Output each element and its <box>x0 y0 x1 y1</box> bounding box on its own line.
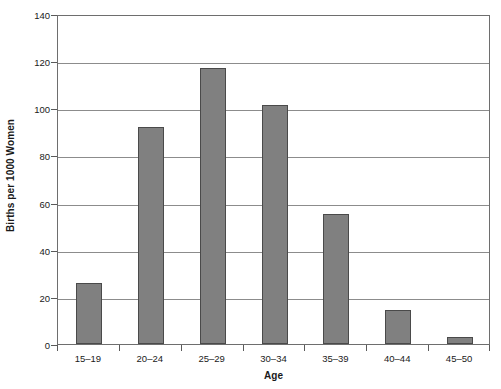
bar <box>447 337 473 344</box>
bar <box>262 105 288 344</box>
x-axis-tick-label: 40–44 <box>384 353 410 364</box>
y-axis-title: Births per 1000 Women <box>0 0 22 350</box>
y-axis-tick-label: 40 <box>22 245 50 256</box>
y-axis-tick-label: 120 <box>22 57 50 68</box>
x-axis-tick-marks <box>57 345 490 351</box>
y-axis-tick-label: 140 <box>22 10 50 21</box>
x-axis-tick-mark <box>57 345 58 351</box>
x-axis-tick-mark <box>428 345 429 351</box>
x-axis-title: Age <box>57 370 490 381</box>
plot-area <box>57 15 490 345</box>
y-axis-tick-label: 80 <box>22 151 50 162</box>
x-axis-tick-mark <box>304 345 305 351</box>
y-axis-tick-label: 20 <box>22 292 50 303</box>
bar <box>323 214 349 344</box>
y-axis-tick-label: 0 <box>22 340 50 351</box>
x-axis-tick-label: 35–39 <box>322 353 348 364</box>
x-axis-tick-label: 15–19 <box>75 353 101 364</box>
bars-layer <box>58 16 489 344</box>
x-axis-tick-mark <box>489 345 490 351</box>
x-axis-tick-label: 30–34 <box>260 353 286 364</box>
x-axis-tick-label: 25–29 <box>198 353 224 364</box>
bar <box>76 283 102 344</box>
x-axis-tick-mark <box>181 345 182 351</box>
x-axis-tick-label: 20–24 <box>137 353 163 364</box>
bar <box>138 127 164 344</box>
y-axis-title-text: Births per 1000 Women <box>6 118 17 231</box>
bar <box>385 310 411 344</box>
y-axis-tick-labels: 020406080100120140 <box>22 15 50 345</box>
x-axis-tick-label: 45–50 <box>446 353 472 364</box>
bar <box>200 68 226 344</box>
x-axis-tick-labels: 15–1920–2425–2930–3435–3940–4445–50 <box>57 353 490 369</box>
bar-chart-figure: Births per 1000 Women 020406080100120140… <box>0 0 501 389</box>
x-axis-tick-mark <box>119 345 120 351</box>
y-axis-tick-label: 100 <box>22 104 50 115</box>
x-axis-tick-mark <box>366 345 367 351</box>
x-axis-tick-mark <box>243 345 244 351</box>
y-axis-tick-label: 60 <box>22 198 50 209</box>
